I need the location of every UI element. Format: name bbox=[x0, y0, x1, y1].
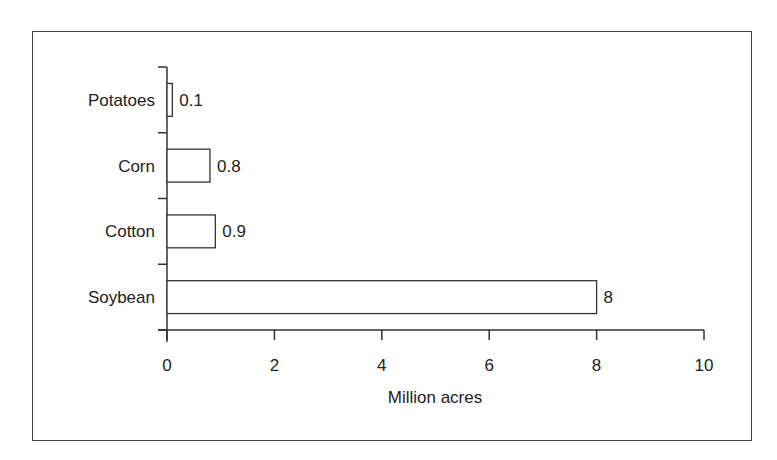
x-tick-label: 6 bbox=[484, 356, 493, 375]
x-axis-label: Million acres bbox=[388, 388, 482, 407]
category-label: Cotton bbox=[105, 222, 155, 241]
bar-soybean bbox=[167, 281, 597, 314]
axes: 0246810 bbox=[158, 67, 713, 375]
value-label: 0.1 bbox=[179, 91, 203, 110]
bar-corn bbox=[167, 149, 210, 182]
category-label: Potatoes bbox=[88, 91, 155, 110]
x-tick-label: 4 bbox=[377, 356, 386, 375]
value-label: 0.8 bbox=[217, 157, 241, 176]
x-tick-label: 0 bbox=[162, 356, 171, 375]
value-label: 0.9 bbox=[222, 222, 246, 241]
value-label: 8 bbox=[604, 288, 613, 307]
x-tick-label: 2 bbox=[270, 356, 279, 375]
category-label: Soybean bbox=[88, 288, 155, 307]
category-label: Corn bbox=[118, 157, 155, 176]
bar-chart: 0246810 Potatoes0.1Corn0.8Cotton0.9Soybe… bbox=[0, 0, 777, 460]
x-tick-label: 10 bbox=[695, 356, 714, 375]
bar-cotton bbox=[167, 215, 215, 248]
x-tick-label: 8 bbox=[592, 356, 601, 375]
bar-potatoes bbox=[167, 83, 172, 116]
